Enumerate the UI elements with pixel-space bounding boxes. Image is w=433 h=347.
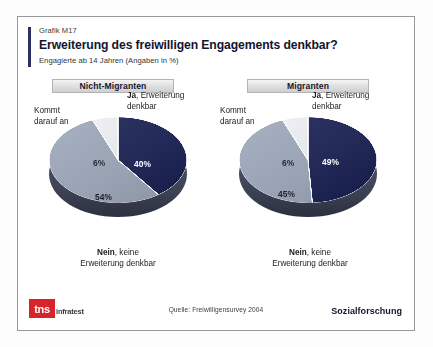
callout-kommt-line1-left: Kommt bbox=[34, 106, 60, 115]
callout-ja-rest-right: , Erweiterung bbox=[321, 91, 369, 100]
callout-nein-rest-left: , keine bbox=[115, 248, 139, 257]
header-accent-bar bbox=[28, 27, 31, 67]
department-label: Sozialforschung bbox=[331, 306, 402, 316]
chart-panel-migranten: Migranten 49% 45% 6% Ja, Erweiterung den… bbox=[214, 79, 402, 279]
slide-frame: Grafik M17 Erweiterung des freiwilligen … bbox=[17, 16, 415, 331]
scanned-page: Grafik M17 Erweiterung des freiwilligen … bbox=[0, 0, 433, 347]
callout-ja-line2-right: denkbar bbox=[312, 102, 342, 111]
callout-ja-line2-left: denkbar bbox=[127, 102, 157, 111]
pie-value-ja-right: 49% bbox=[322, 157, 339, 167]
pie-chart-left bbox=[49, 117, 187, 225]
callout-ja-rest-left: , Erweiterung bbox=[136, 91, 184, 100]
callout-ja-bold-left: Ja bbox=[127, 91, 136, 100]
callout-nein-bold-left: Nein bbox=[97, 248, 115, 257]
chart-title-right: Migranten bbox=[287, 81, 329, 91]
callout-kommt-line2-right: darauf an bbox=[220, 117, 255, 126]
callout-nein-line2-left: Erweiterung denkbar bbox=[80, 259, 156, 268]
chart-title-left: Nicht-Migranten bbox=[80, 81, 147, 91]
pie-top-face-right bbox=[239, 117, 377, 203]
graph-id-label: Grafik M17 bbox=[39, 25, 406, 36]
slide-footer: tns infratest Quelle: Freiwilligensurvey… bbox=[18, 286, 414, 330]
page-subtitle: Engagierte ab 14 Jahren (Angaben in %) bbox=[39, 55, 406, 66]
pie-value-ja-left: 40% bbox=[134, 159, 151, 169]
callout-kommt-left: Kommt darauf an bbox=[34, 106, 69, 127]
page-title: Erweiterung des freiwilligen Engagements… bbox=[39, 37, 406, 53]
pie-value-nein-right: 45% bbox=[278, 189, 295, 199]
slide-header: Grafik M17 Erweiterung des freiwilligen … bbox=[28, 25, 406, 66]
pie-canvas-right bbox=[239, 117, 377, 203]
callout-ja-right: Ja, Erweiterung denkbar bbox=[312, 91, 369, 112]
pie-chart-right bbox=[239, 117, 377, 225]
pie-canvas-left bbox=[49, 117, 187, 203]
pie-value-nein-left: 54% bbox=[95, 192, 112, 202]
callout-nein-bold-right: Nein bbox=[289, 248, 307, 257]
callout-ja-bold-right: Ja bbox=[312, 91, 321, 100]
callout-nein-rest-right: , keine bbox=[307, 248, 331, 257]
callout-kommt-line1-right: Kommt bbox=[220, 106, 246, 115]
callout-ja-left: Ja, Erweiterung denkbar bbox=[127, 91, 184, 112]
chart-panel-nicht-migranten: Nicht-Migranten 40% 54% 6% Ja, Erweiteru… bbox=[24, 79, 212, 279]
pie-top-face-left bbox=[49, 117, 187, 203]
callout-kommt-right: Kommt darauf an bbox=[220, 106, 255, 127]
pie-value-kommt-right: 6% bbox=[282, 158, 294, 168]
callout-nein-left: Nein, keine Erweiterung denkbar bbox=[58, 248, 178, 269]
callout-nein-right: Nein, keine Erweiterung denkbar bbox=[250, 248, 370, 269]
callout-kommt-line2-left: darauf an bbox=[34, 117, 69, 126]
pie-value-kommt-left: 6% bbox=[93, 158, 105, 168]
callout-nein-line2-right: Erweiterung denkbar bbox=[272, 259, 348, 268]
